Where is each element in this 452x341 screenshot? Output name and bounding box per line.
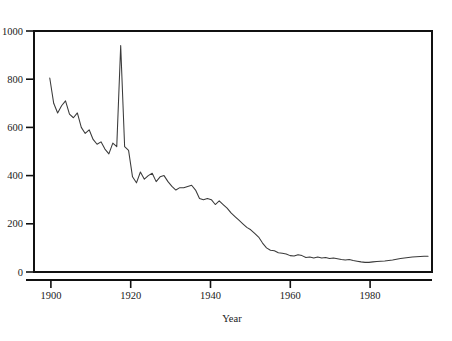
y-axis-ticks <box>26 31 34 272</box>
plot-frame <box>34 31 432 272</box>
x-tick-label-1960: 1960 <box>280 290 301 301</box>
y-tick-label-1000: 1000 <box>2 26 23 37</box>
x-axis-title: Year <box>222 313 242 324</box>
data-series-line <box>50 45 428 262</box>
y-tick-label-0: 0 <box>18 267 23 278</box>
y-tick-label-800: 800 <box>7 74 23 85</box>
x-tick-label-1900: 1900 <box>40 290 61 301</box>
y-tick-label-400: 400 <box>7 170 23 181</box>
line-chart-plot: 1000 800 600 400 200 0 1900 1920 1940 19… <box>0 0 452 341</box>
x-tick-label-1920: 1920 <box>120 290 141 301</box>
x-tick-label-1940: 1940 <box>200 290 221 301</box>
y-tick-label-200: 200 <box>7 218 23 229</box>
x-axis-tick-labels: 1900 1920 1940 1960 1980 <box>40 290 380 301</box>
x-axis-ticks <box>51 280 370 288</box>
chart-figure: 1000 800 600 400 200 0 1900 1920 1940 19… <box>0 0 452 341</box>
y-axis-tick-labels: 1000 800 600 400 200 0 <box>2 26 23 278</box>
y-tick-label-600: 600 <box>7 122 23 133</box>
x-tick-label-1980: 1980 <box>360 290 381 301</box>
